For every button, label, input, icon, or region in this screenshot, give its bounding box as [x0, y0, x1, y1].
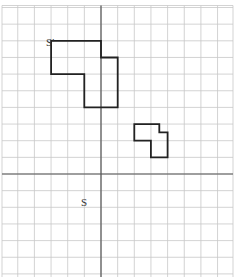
grid-lines: [2, 6, 233, 277]
shapes: SS': [46, 36, 168, 208]
shape-label-s: S: [81, 196, 87, 208]
shape-label-s-prime: S': [46, 36, 54, 48]
coordinate-grid-diagram: SS': [0, 0, 234, 277]
